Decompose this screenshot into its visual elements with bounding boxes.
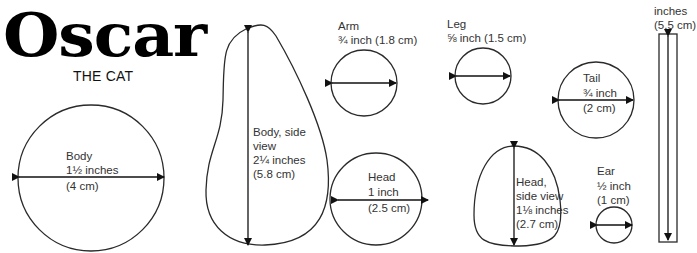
strip-label-inches: inches [654, 4, 687, 18]
tail-label-name: Tail [583, 71, 600, 85]
head-side-label-inches: 1⅛ inches [516, 203, 568, 217]
leg-label-name: Leg [447, 17, 466, 31]
leg-label-size: ⅝ inch (1.5 cm) [447, 31, 526, 45]
ear-label-inches: ½ inch [597, 179, 631, 193]
head-side-label-name: Head, [516, 175, 547, 189]
tail-label-cm: (2 cm) [583, 101, 616, 115]
ear-label-cm: (1 cm) [597, 193, 630, 207]
body-side-label-name2: view [253, 139, 276, 153]
body-label-inches: 1½ inches [66, 163, 118, 177]
body-side-label-name: Body, side [253, 125, 306, 139]
head-circle [330, 153, 422, 245]
body-circle [18, 105, 164, 251]
head-label-cm: (2.5 cm) [368, 201, 410, 215]
head-label-inches: 1 inch [368, 185, 399, 199]
body-label-cm: (4 cm) [66, 179, 99, 193]
body-side-label-inches: 2¼ inches [253, 153, 305, 167]
arm-label-size: ¾ inch (1.8 cm) [338, 33, 417, 47]
head-side-label-cm: (2.7 cm) [516, 217, 558, 231]
ear-label-name: Ear [597, 164, 615, 178]
head-label-name: Head [368, 170, 396, 184]
body-side-label-cm: (5.8 cm) [253, 167, 295, 181]
arm-label-name: Arm [338, 19, 359, 33]
tail-label-inches: ¾ inch [583, 86, 617, 100]
body-label-name: Body [66, 149, 92, 163]
strip-label-cm: (5.5 cm) [654, 18, 696, 32]
head-side-label-name2: side view [516, 189, 563, 203]
